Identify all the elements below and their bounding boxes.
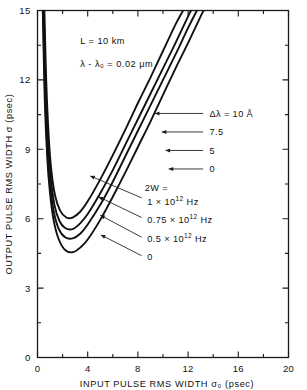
xtick-label: 12: [183, 363, 194, 374]
series-label-delta-lambda: Δλ = 10 Å: [209, 109, 253, 119]
ytick-label: 15: [19, 5, 30, 16]
xtick-label: 4: [85, 363, 91, 374]
ann-L: L = 10 km: [80, 36, 125, 46]
ytick-label: 12: [19, 74, 30, 85]
xtick-label: 8: [135, 363, 141, 374]
series-label-delta-lambda: 0: [209, 164, 215, 174]
ytick-label: 9: [25, 144, 31, 155]
y-axis-title: OUTPUT PULSE RMS WIDTH σ (psec): [4, 94, 14, 275]
xtick-label: 20: [283, 363, 294, 374]
label-2w-header: 2W =: [145, 183, 168, 193]
series-label-delta-lambda: 7.5: [209, 127, 223, 137]
label-2w-0: 0: [147, 252, 153, 262]
label-2w-075: 0.75 × 1012 Hz: [147, 213, 212, 225]
figure-root: L = 10 kmλ - λ₀ = 0.02 μmΔλ = 10 Å7.5502…: [0, 0, 307, 390]
xtick-label: 16: [233, 363, 244, 374]
ann-lambda: λ - λ₀ = 0.02 μm: [80, 59, 153, 69]
label-2w-05: 0.5 × 1012 Hz: [147, 232, 207, 244]
ytick-label: 3: [25, 283, 31, 294]
series-label-delta-lambda: 5: [209, 146, 215, 156]
dispersion-chart: L = 10 kmλ - λ₀ = 0.02 μmΔλ = 10 Å7.5502…: [0, 0, 307, 390]
ytick-label: 6: [25, 213, 31, 224]
label-2w-1: 1 × 1012 Hz: [147, 195, 198, 207]
x-axis-title: INPUT PULSE RMS WIDTH σ₀ (psec): [80, 379, 254, 389]
xtick-label: 0: [35, 363, 41, 374]
ytick-label: 0: [25, 352, 31, 363]
